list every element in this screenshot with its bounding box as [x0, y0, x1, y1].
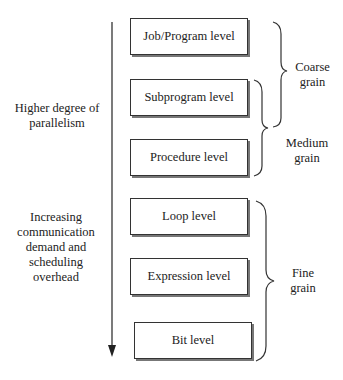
fine-grain-brace — [256, 201, 274, 361]
level-box-expression: Expression level — [130, 258, 248, 295]
level-label: Subprogram level — [144, 90, 233, 105]
fine-grain-label: Fine grain — [287, 266, 319, 296]
overhead-label-line5: overhead — [16, 270, 96, 285]
down-arrow-icon — [108, 22, 116, 357]
level-box-subprogram: Subprogram level — [130, 79, 248, 116]
coarse-grain-brace — [273, 22, 287, 127]
coarse-grain-line1: Coarse — [290, 60, 335, 75]
coarse-grain-line2: grain — [290, 75, 335, 90]
level-label: Loop level — [162, 209, 216, 224]
level-label: Expression level — [148, 269, 231, 284]
level-label: Job/Program level — [143, 29, 234, 44]
overhead-label-line1: Increasing — [16, 210, 96, 225]
level-box-bit: Bit level — [134, 322, 252, 359]
level-label: Procedure level — [150, 150, 228, 165]
overhead-label-line2: communication — [16, 225, 96, 240]
coarse-grain-label: Coarse grain — [290, 60, 335, 90]
level-label: Bit level — [172, 333, 215, 348]
overhead-label-line4: scheduling — [16, 255, 96, 270]
fine-grain-line1: Fine — [287, 266, 319, 281]
medium-grain-line2: grain — [283, 151, 331, 166]
parallelism-label-line1: Higher degree of — [12, 101, 102, 116]
medium-grain-line1: Medium — [283, 136, 331, 151]
medium-grain-brace — [254, 80, 268, 176]
level-box-loop: Loop level — [130, 198, 248, 235]
level-box-job-program: Job/Program level — [130, 18, 248, 55]
parallelism-label-line2: parallelism — [12, 116, 102, 131]
parallelism-label: Higher degree of parallelism — [12, 101, 102, 131]
fine-grain-line2: grain — [287, 281, 319, 296]
overhead-label-line3: demand and — [16, 240, 96, 255]
level-box-procedure: Procedure level — [130, 139, 248, 176]
overhead-label: Increasing communication demand and sche… — [16, 210, 96, 285]
medium-grain-label: Medium grain — [283, 136, 331, 166]
